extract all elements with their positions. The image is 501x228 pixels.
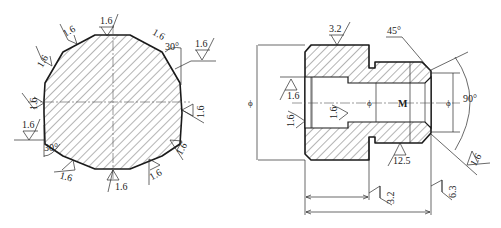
roughness-label: 1.6: [195, 106, 206, 119]
thread-label: M: [398, 98, 408, 109]
end-diameter-symbol: ϕ: [446, 98, 451, 108]
roughness-left-lower: 1.6: [14, 119, 44, 140]
roughness-top-left: 1.6: [60, 23, 77, 44]
roughness-label-top-right: 1.6: [151, 26, 167, 42]
roughness-label: 1.6: [59, 170, 74, 184]
left-view: 1.6 1.6 1.6 1.6 1.6 30° 1.6: [14, 14, 216, 192]
roughness-left-face: 1.6: [285, 111, 305, 128]
roughness-label: 1.6: [468, 151, 484, 167]
roughness-left: 1.6: [22, 93, 44, 110]
roughness-label: 1.6: [195, 38, 208, 49]
roughness-chamfer: 1.6: [467, 151, 490, 168]
roughness-label: 1.6: [287, 90, 300, 101]
roughness-top-face: 3.2: [329, 22, 350, 45]
roughness-label: 1.6: [115, 181, 128, 192]
outer-diameter-symbol: ϕ: [248, 98, 253, 108]
roughness-bottom: 1.6: [107, 170, 128, 192]
roughness-right: 1.6: [182, 104, 206, 123]
roughness-bottom-right: 1.6: [147, 159, 163, 185]
roughness-label: 1.6: [285, 115, 296, 128]
roughness-left-upper: 1.6: [34, 46, 52, 69]
bore-diameter-symbol: ϕ: [367, 98, 372, 108]
roughness-label: 1.6: [22, 119, 35, 130]
cone-line-bottom: [431, 134, 477, 175]
roughness-end: 6.3: [431, 180, 458, 200]
cone-line-top: [431, 52, 468, 70]
roughness-label: 3.2: [329, 23, 342, 34]
angle-label-bottom: 30°: [44, 142, 58, 153]
engineering-drawing: 1.6 1.6 1.6 1.6 1.6 30° 1.6: [0, 0, 501, 228]
roughness-label: 1.6: [147, 166, 163, 182]
roughness-label: 1.6: [34, 53, 50, 69]
roughness-shoulder: 3.2: [369, 186, 396, 205]
roughness-groove: 12.5: [388, 143, 411, 166]
angle-label-top: 30°: [165, 41, 179, 52]
roughness-top: 1.6: [99, 14, 118, 36]
roughness-label: 1.6: [100, 15, 113, 26]
roughness-label: 1.6: [28, 98, 39, 111]
roughness-bore-left: 1.6: [280, 77, 305, 101]
roughness-label: 3.2: [385, 192, 396, 205]
right-view: ϕ M ϕ ϕ 45° 90° 3.2: [248, 22, 490, 215]
roughness-label: 6.3: [447, 186, 458, 199]
roughness-label: 12.5: [393, 155, 411, 166]
roughness-label: 1.6: [328, 107, 339, 120]
roughness-bottom-left: 1.6: [54, 160, 75, 183]
chamfer-angle-label: 45°: [387, 25, 401, 36]
cone-angle-label: 90°: [463, 93, 477, 104]
